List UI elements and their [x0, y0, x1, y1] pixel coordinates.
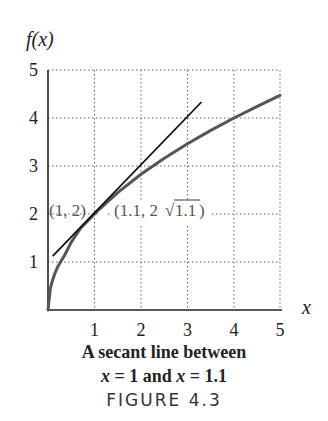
x-tick-4: 4 — [230, 320, 239, 340]
y-tick-4: 4 — [29, 108, 38, 128]
caption-subtitle: x = 1 and x = 1.1 — [0, 366, 328, 387]
point-label-2-prefix: (1.1, 2 — [114, 201, 158, 220]
caption-title: A secant line between — [0, 342, 328, 363]
x-tick-5: 5 — [276, 320, 285, 340]
y-axis-label: f(x) — [26, 28, 54, 51]
point-label-2-suffix: ) — [199, 201, 205, 220]
caption-var-x2: x — [176, 366, 185, 386]
grid — [48, 70, 280, 310]
y-tick-5: 5 — [29, 60, 38, 80]
y-tick-labels: 1 2 3 4 5 — [29, 60, 38, 272]
y-tick-3: 3 — [29, 156, 38, 176]
sqrt-symbol: √ — [165, 201, 175, 220]
x-tick-labels: 1 2 3 4 5 — [90, 320, 285, 340]
secant-line — [53, 102, 202, 256]
point-label-1: (1, 2) — [49, 201, 86, 220]
caption-var-x1: x — [101, 366, 110, 386]
axes — [48, 70, 282, 310]
x-tick-1: 1 — [90, 320, 99, 340]
caption-end: = 1.1 — [185, 366, 227, 386]
y-tick-1: 1 — [29, 252, 38, 272]
x-axis-label: x — [301, 296, 311, 318]
point-label-2: (1.1, 2 √ 1.1 ) — [114, 200, 205, 220]
y-tick-2: 2 — [29, 204, 38, 224]
x-tick-2: 2 — [137, 320, 146, 340]
caption-mid: = 1 and — [110, 366, 176, 386]
figure-label: FIGURE 4.3 — [0, 390, 328, 410]
point-label-2-radicand: 1.1 — [175, 201, 196, 220]
x-tick-3: 3 — [183, 320, 192, 340]
